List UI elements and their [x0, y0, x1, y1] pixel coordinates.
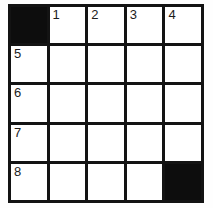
clue-number: 3 — [130, 7, 137, 22]
clue-number: 5 — [14, 46, 21, 61]
grid-cell[interactable] — [127, 46, 163, 82]
grid-cell[interactable] — [165, 85, 201, 121]
clue-number: 8 — [14, 164, 21, 179]
grid-cell[interactable]: 4 — [165, 7, 201, 43]
grid-cell[interactable] — [88, 46, 124, 82]
clue-number: 7 — [14, 125, 21, 140]
grid-cell[interactable] — [127, 85, 163, 121]
grid-cell[interactable] — [127, 125, 163, 161]
crossword-grid: 12345678 — [8, 4, 204, 203]
grid-cell[interactable]: 5 — [11, 46, 47, 82]
grid-cell[interactable]: 1 — [50, 7, 86, 43]
grid-block-cell — [11, 7, 47, 43]
grid-cell[interactable] — [127, 164, 163, 200]
grid-cell[interactable]: 7 — [11, 125, 47, 161]
grid-cell[interactable] — [88, 85, 124, 121]
clue-number: 6 — [14, 85, 21, 100]
grid-cell[interactable] — [50, 85, 86, 121]
clue-number: 1 — [53, 7, 60, 22]
grid-cell[interactable] — [165, 46, 201, 82]
grid-cell[interactable]: 2 — [88, 7, 124, 43]
grid-cell[interactable]: 3 — [127, 7, 163, 43]
grid-cell[interactable] — [50, 46, 86, 82]
grid-block-cell — [165, 164, 201, 200]
clue-number: 2 — [91, 7, 98, 22]
crossword-puzzle: 12345678 — [0, 0, 213, 208]
grid-cell[interactable] — [50, 164, 86, 200]
grid-cell[interactable] — [50, 125, 86, 161]
grid-cell[interactable] — [165, 125, 201, 161]
grid-cell[interactable]: 8 — [11, 164, 47, 200]
grid-cell[interactable]: 6 — [11, 85, 47, 121]
grid-cell[interactable] — [88, 164, 124, 200]
grid-cell[interactable] — [88, 125, 124, 161]
clue-number: 4 — [168, 7, 175, 22]
